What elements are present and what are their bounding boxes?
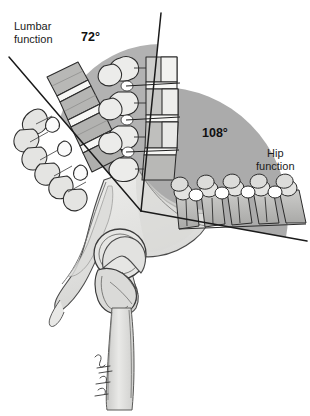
spine-body-L1 xyxy=(146,57,177,82)
lumbar-function-label: Lumbar function xyxy=(14,20,53,46)
spine-body-L4 xyxy=(142,155,176,180)
hip-function-label: Hip function xyxy=(256,147,295,173)
lumbar-angle-value: 72° xyxy=(81,30,100,44)
hip-angle-value: 108° xyxy=(202,126,228,140)
lumbopelvic-illustration xyxy=(0,0,310,416)
anatomy-figure: Lumbar function Hip function 72° 108° xyxy=(0,0,310,416)
